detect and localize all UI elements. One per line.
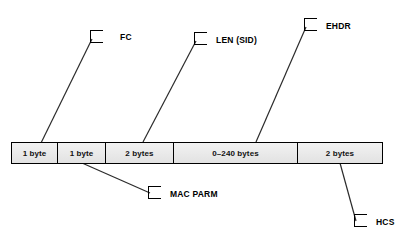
callout-bracket-len-sid bbox=[194, 32, 207, 45]
callout-label-len-sid: LEN (SID) bbox=[216, 35, 257, 45]
leader-line-hcs bbox=[340, 163, 356, 221]
leader-line-len-sid bbox=[143, 41, 196, 142]
frame-field-len-sid: 2 bytes bbox=[106, 143, 174, 163]
callout-label-ehdr: EHDR bbox=[326, 21, 351, 31]
callout-bracket-hcs bbox=[354, 214, 367, 227]
callout-label-mac-parm: MAC PARM bbox=[170, 189, 218, 199]
frame-field-mac-parm: 1 byte bbox=[58, 143, 106, 163]
callout-bracket-fc bbox=[90, 30, 103, 43]
frame-field-fc: 1 byte bbox=[12, 143, 58, 163]
callout-bracket-mac-parm bbox=[148, 186, 161, 199]
leader-line-mac-parm bbox=[82, 163, 150, 193]
callout-label-hcs: HCS bbox=[376, 217, 395, 227]
frame-format-diagram: 1 byte 1 byte 2 bytes 0–240 bytes 2 byte… bbox=[0, 0, 407, 252]
frame-field-ehdr: 0–240 bytes bbox=[174, 143, 298, 163]
frame-bar: 1 byte 1 byte 2 bytes 0–240 bytes 2 byte… bbox=[11, 142, 383, 164]
callout-bracket-ehdr bbox=[304, 18, 317, 31]
callout-label-fc: FC bbox=[120, 32, 132, 42]
frame-field-hcs: 2 bytes bbox=[298, 143, 382, 163]
leader-line-ehdr bbox=[256, 27, 306, 142]
leader-line-fc bbox=[41, 39, 92, 143]
